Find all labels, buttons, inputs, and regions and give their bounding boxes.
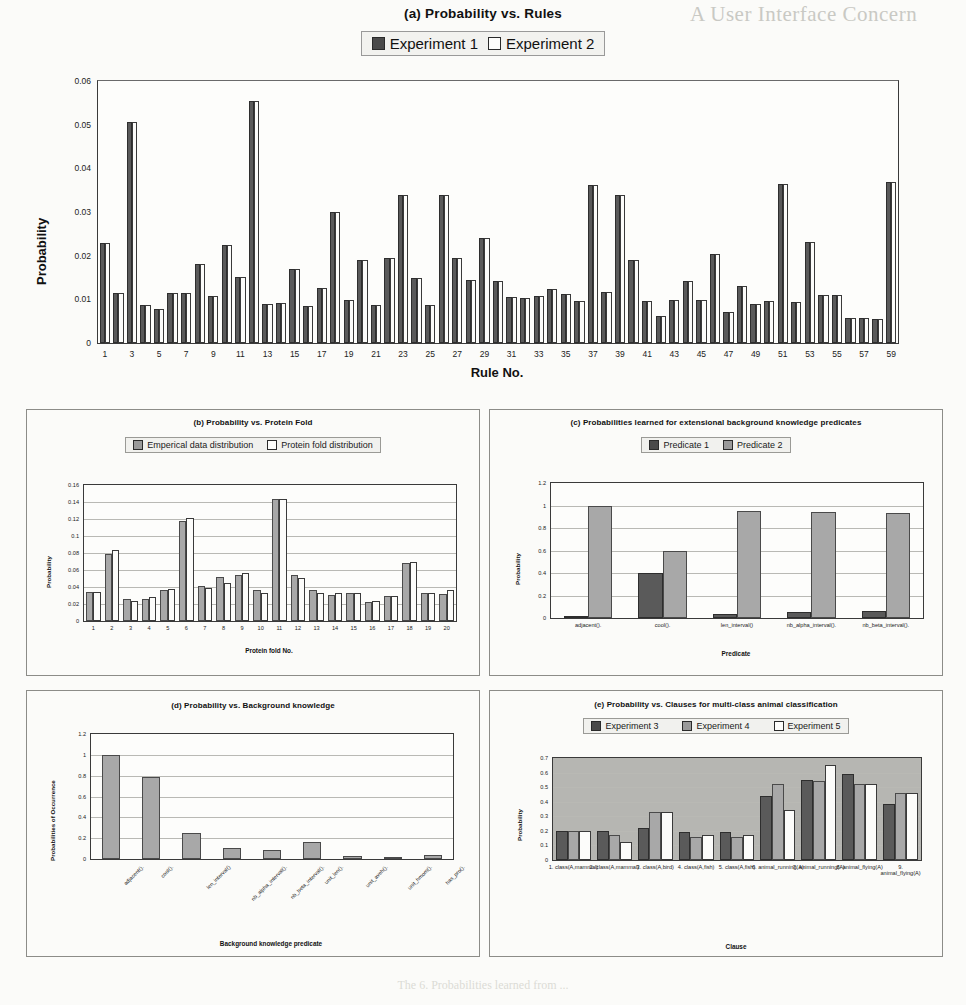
bar bbox=[105, 554, 112, 621]
bar bbox=[263, 850, 281, 859]
bar bbox=[597, 831, 609, 860]
bar bbox=[702, 835, 714, 861]
y-tick-label: 1.2 bbox=[60, 731, 86, 737]
legend-item-experiment-2: Experiment 2 bbox=[488, 35, 594, 52]
bar bbox=[186, 293, 191, 343]
bar bbox=[224, 583, 231, 621]
figure-caption: The 6. Probabilities learned from ... bbox=[0, 978, 966, 993]
bar bbox=[701, 300, 706, 343]
x-tick-label: 2 bbox=[110, 625, 113, 631]
x-tick-label: 31 bbox=[507, 349, 516, 359]
bar bbox=[679, 832, 691, 860]
bar bbox=[564, 616, 588, 618]
x-tick-label: 11 bbox=[236, 349, 245, 359]
x-tick-label: cool(). bbox=[160, 864, 175, 879]
bar bbox=[123, 599, 130, 621]
y-tick-label: 1.2 bbox=[520, 480, 546, 486]
gridline bbox=[84, 519, 456, 520]
bar bbox=[593, 185, 598, 344]
y-tick-label: 0.6 bbox=[522, 770, 548, 776]
legend-label: Predicate 2 bbox=[737, 440, 783, 450]
x-tick-label: 43 bbox=[670, 349, 679, 359]
y-tick-label: 0.05 bbox=[57, 120, 91, 130]
legend-swatch-icon bbox=[488, 37, 501, 50]
x-tick-label: 2. class(A,mammal) bbox=[590, 864, 639, 870]
bar bbox=[160, 590, 167, 621]
x-tick-label: 4. class(A,fish) bbox=[678, 864, 715, 870]
y-tick-label: 0.12 bbox=[53, 516, 79, 522]
x-tick-label: 1 bbox=[92, 625, 95, 631]
bar bbox=[254, 101, 259, 343]
bar bbox=[391, 596, 398, 622]
chart-b-plot: 00.020.040.060.080.10.120.140.1612345678… bbox=[83, 484, 457, 622]
y-tick-label: 0.6 bbox=[60, 794, 86, 800]
bar bbox=[216, 577, 223, 621]
x-tick-label: cool(). bbox=[655, 622, 671, 628]
chart-d-ylabel: Probabilities of Occurrence bbox=[49, 780, 56, 861]
bar bbox=[142, 599, 149, 621]
x-tick-label: 49 bbox=[751, 349, 760, 359]
bar bbox=[729, 312, 734, 343]
bar bbox=[291, 575, 298, 621]
chart-c-title: (c) Probabilities learned for extensiona… bbox=[490, 418, 942, 427]
x-tick-label: 57 bbox=[859, 349, 868, 359]
x-tick-label: 3 bbox=[130, 349, 135, 359]
bar bbox=[742, 286, 747, 343]
bar bbox=[105, 243, 110, 343]
x-tick-label: 19 bbox=[425, 625, 431, 631]
y-tick-label: 0.8 bbox=[60, 773, 86, 779]
bar bbox=[227, 245, 232, 343]
gridline bbox=[91, 755, 453, 756]
bar bbox=[634, 260, 639, 343]
bar bbox=[471, 280, 476, 343]
x-tick-label: unit_aveh(). bbox=[365, 864, 389, 888]
y-tick-label: 0.06 bbox=[57, 76, 91, 86]
bar bbox=[609, 835, 621, 861]
x-tick-label: adjacent(). bbox=[123, 864, 145, 886]
x-tick-label: 37 bbox=[588, 349, 597, 359]
bar bbox=[205, 588, 212, 621]
bar bbox=[862, 611, 886, 618]
bar bbox=[760, 796, 772, 860]
bar bbox=[811, 512, 835, 618]
x-tick-label: 8. animal_flying(A) bbox=[836, 864, 882, 870]
bar bbox=[261, 593, 268, 621]
legend-label: Experiment 1 bbox=[390, 35, 478, 52]
x-tick-label: 11 bbox=[276, 625, 282, 631]
bar bbox=[796, 302, 801, 343]
bar bbox=[112, 550, 119, 621]
gridline bbox=[84, 570, 456, 571]
chart-c-legend: Predicate 1 Predicate 2 bbox=[641, 437, 790, 453]
x-tick-label: 29 bbox=[480, 349, 489, 359]
bar bbox=[715, 254, 720, 343]
chart-a-title: (a) Probability vs. Rules bbox=[0, 6, 966, 21]
legend-item-predicate-1: Predicate 1 bbox=[649, 440, 709, 450]
bar bbox=[883, 804, 895, 860]
y-tick-label: 1 bbox=[520, 503, 546, 509]
chart-a-legend-wrap: Experiment 1 Experiment 2 bbox=[0, 31, 966, 56]
bar bbox=[376, 305, 381, 343]
bar bbox=[484, 238, 489, 343]
legend-label: Experiment 2 bbox=[506, 35, 594, 52]
chart-b-xlabel: Protein fold No. bbox=[83, 647, 455, 654]
bar bbox=[281, 303, 286, 343]
bar bbox=[349, 300, 354, 343]
bar bbox=[402, 563, 409, 621]
x-tick-label: 5. class(A,fish) bbox=[719, 864, 756, 870]
x-tick-label: 8 bbox=[222, 625, 225, 631]
bar bbox=[145, 305, 150, 343]
y-tick-label: 0.2 bbox=[522, 828, 548, 834]
legend-swatch-icon bbox=[133, 440, 143, 450]
x-tick-label: 6 bbox=[185, 625, 188, 631]
bar bbox=[620, 195, 625, 343]
y-tick-label: 0 bbox=[60, 856, 86, 862]
x-tick-label: 4 bbox=[148, 625, 151, 631]
legend-label: Experiment 4 bbox=[696, 721, 749, 731]
y-tick-label: 0.1 bbox=[53, 533, 79, 539]
bar bbox=[295, 269, 300, 343]
bar bbox=[620, 842, 632, 860]
x-tick-label: 18 bbox=[406, 625, 412, 631]
bar bbox=[372, 601, 379, 621]
x-tick-label: 45 bbox=[697, 349, 706, 359]
x-tick-label: len_interval() bbox=[205, 864, 231, 890]
